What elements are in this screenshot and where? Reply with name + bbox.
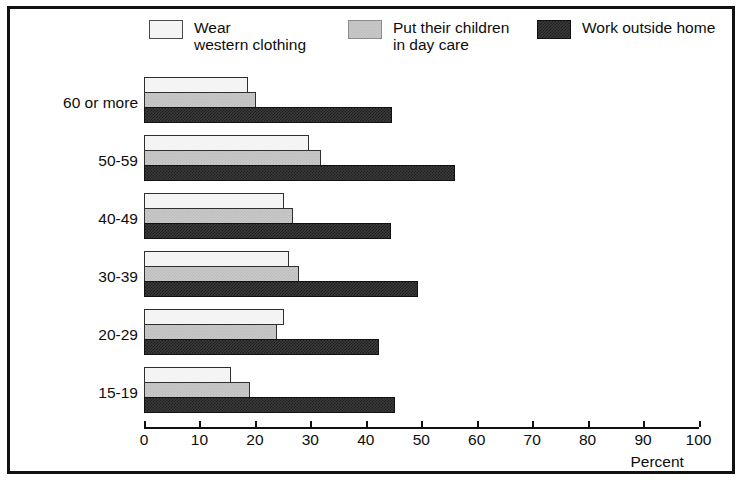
x-axis-tick-90 xyxy=(643,421,645,427)
chart-figure: Wear western clothingPut their children … xyxy=(7,6,735,474)
legend-item-2: Work outside home xyxy=(537,19,715,39)
bar-white xyxy=(144,309,284,325)
x-axis-tick-label-40: 40 xyxy=(346,431,386,449)
chart-legend: Wear western clothingPut their children … xyxy=(10,15,732,63)
category-label: 50-59 xyxy=(18,153,138,168)
bar-group-2 xyxy=(144,193,744,241)
bar-white xyxy=(144,251,289,267)
x-axis-tick-50 xyxy=(421,421,423,427)
x-axis-title: Percent xyxy=(631,453,684,471)
legend-item-1: Put their children in day care xyxy=(348,19,509,53)
x-axis-tick-60 xyxy=(477,421,479,427)
x-axis-tick-label-20: 20 xyxy=(235,431,275,449)
bar-group-0 xyxy=(144,77,744,125)
x-axis-tick-30 xyxy=(310,421,312,427)
x-axis-tick-100 xyxy=(699,421,701,427)
x-axis-tick-label-50: 50 xyxy=(401,431,441,449)
x-axis-tick-label-70: 70 xyxy=(512,431,552,449)
category-label: 60 or more xyxy=(18,95,138,110)
x-axis-tick-label-0: 0 xyxy=(124,431,164,449)
bar-group-1 xyxy=(144,135,744,183)
x-axis-tick-label-30: 30 xyxy=(290,431,330,449)
x-axis-tick-label-100: 100 xyxy=(679,431,719,449)
bar-gray xyxy=(144,324,277,340)
x-axis-tick-70 xyxy=(532,421,534,427)
legend-swatch-gray-icon xyxy=(348,20,382,39)
bar-gray xyxy=(144,150,321,166)
x-axis-tick-20 xyxy=(255,421,257,427)
bar-white xyxy=(144,367,231,383)
x-axis-tick-label-10: 10 xyxy=(179,431,219,449)
bar-gray xyxy=(144,208,293,224)
bar-dark xyxy=(144,397,395,413)
bar-gray xyxy=(144,382,250,398)
x-axis-tick-0 xyxy=(144,421,146,427)
legend-label-0: Wear western clothing xyxy=(194,19,306,53)
bar-group-3 xyxy=(144,251,744,299)
x-axis-tick-40 xyxy=(366,421,368,427)
chart-inner: Wear western clothingPut their children … xyxy=(10,9,732,471)
x-axis-tick-label-80: 80 xyxy=(568,431,608,449)
bar-group-5 xyxy=(144,367,744,415)
bar-dark xyxy=(144,339,379,355)
x-axis-tick-label-60: 60 xyxy=(457,431,497,449)
bar-dark xyxy=(144,165,455,181)
x-axis-tick-80 xyxy=(588,421,590,427)
category-label: 40-49 xyxy=(18,211,138,226)
bar-group-4 xyxy=(144,309,744,357)
category-label: 15-19 xyxy=(18,385,138,400)
bar-white xyxy=(144,193,284,209)
bar-gray xyxy=(144,92,256,108)
bar-dark xyxy=(144,107,392,123)
x-axis-tick-label-90: 90 xyxy=(623,431,663,449)
legend-label-2: Work outside home xyxy=(582,19,715,36)
legend-item-0: Wear western clothing xyxy=(149,19,306,53)
legend-label-1: Put their children in day care xyxy=(393,19,509,53)
bar-gray xyxy=(144,266,299,282)
bar-dark xyxy=(144,281,418,297)
legend-swatch-white-icon xyxy=(149,20,183,39)
x-axis-tick-10 xyxy=(199,421,201,427)
bar-white xyxy=(144,77,248,93)
chart-plot-area: 60 or more50-5940-4930-3920-2915-19 xyxy=(10,67,732,427)
bar-dark xyxy=(144,223,391,239)
bar-white xyxy=(144,135,309,151)
category-label: 30-39 xyxy=(18,269,138,284)
x-axis-line xyxy=(144,427,699,429)
legend-swatch-dark-icon xyxy=(537,20,571,39)
category-label: 20-29 xyxy=(18,327,138,342)
